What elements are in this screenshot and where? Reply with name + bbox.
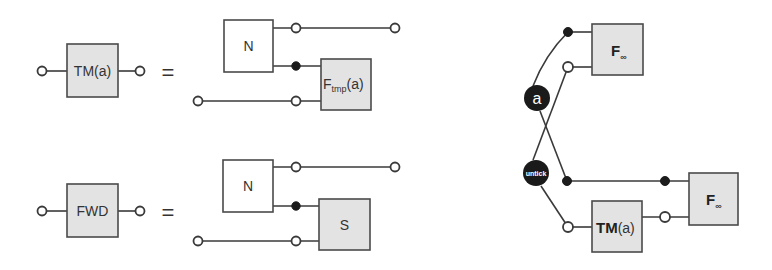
- tm-rhs-input-port: [194, 97, 203, 106]
- lower-left-filled-port: [563, 177, 572, 186]
- a-to-top-dot-wire: [533, 32, 568, 86]
- fwd-rhs-n-label: N: [243, 178, 253, 194]
- lower-right-filled-port: [661, 177, 670, 186]
- tm-rhs-ftmp-input-port: [292, 97, 301, 106]
- tm-rhs-n-label: N: [243, 38, 253, 54]
- tm-label: TM(a): [596, 219, 635, 236]
- diagram-canvas: TM(a) = N Ftmp(a) FWD = N S: [0, 0, 772, 270]
- tm-lhs-input-port: [38, 67, 47, 76]
- tm-lhs-output-port: [136, 67, 145, 76]
- fwd-rhs-input-port: [194, 237, 203, 246]
- tm-lhs-label: TM(a): [74, 63, 111, 79]
- tm-equals-sign: =: [162, 60, 175, 85]
- fwd-rhs-n-output-port: [292, 163, 301, 172]
- fwd-rhs-internal-node: [292, 202, 300, 210]
- node-a-label: a: [533, 90, 542, 107]
- tm-rhs-output-port: [391, 24, 400, 33]
- tm-output-open-port: [660, 212, 670, 222]
- node-untick-label: untick: [526, 170, 547, 177]
- fwd-equation: FWD = N S: [38, 160, 400, 250]
- fwd-rhs-s-input-port: [292, 237, 301, 246]
- fwd-rhs-output-port: [391, 163, 400, 172]
- top-filled-port: [564, 28, 573, 37]
- tm-equation: TM(a) = N Ftmp(a): [38, 20, 400, 110]
- open-port-to-untick-wire: [533, 67, 568, 160]
- fwd-lhs-input-port: [38, 207, 47, 216]
- untick-to-open-port-wire: [541, 186, 568, 227]
- tm-input-open-port: [563, 222, 573, 232]
- fwd-rhs-s-label: S: [340, 217, 349, 233]
- tm-rhs-n-output-port: [292, 24, 301, 33]
- fwd-equals-sign: =: [162, 200, 175, 225]
- top-open-port: [563, 62, 573, 72]
- right-network: F∞ F∞ TM(a) a untick: [523, 24, 738, 252]
- fwd-lhs-output-port: [136, 207, 145, 216]
- fwd-lhs-label: FWD: [77, 203, 109, 219]
- tm-rhs-internal-node: [292, 62, 300, 70]
